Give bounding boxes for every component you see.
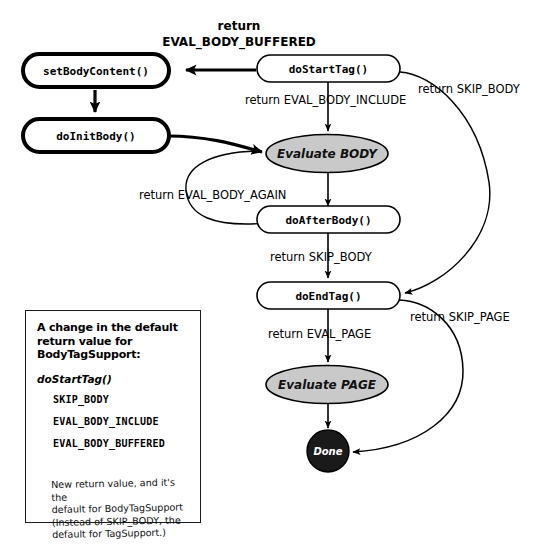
edge-skip-body-after: return SKIP_BODY xyxy=(270,232,373,278)
edge-label-skip-body-start: return SKIP_BODY xyxy=(418,82,521,96)
edge-label-eval-page: return EVAL_PAGE xyxy=(268,327,371,341)
edge-label-eval-body-include: return EVAL_BODY_INCLUDE xyxy=(245,93,406,107)
node-label-evaluate-body: Evaluate BODY xyxy=(277,147,378,161)
note-constant-eval-body-buffered: EVAL_BODY_BUFFERED xyxy=(53,438,191,449)
node-label-set-body-content: setBodyContent() xyxy=(43,65,149,78)
diagram-root: return EVAL_BODY_BUFFERED return EVAL_BO… xyxy=(0,0,538,550)
note-handwritten-annotation: New return value, and it's the default f… xyxy=(51,476,192,542)
node-evaluate-body[interactable]: Evaluate BODY xyxy=(266,135,388,173)
title-line-1: return xyxy=(218,19,261,33)
note-constant-list: SKIP_BODY EVAL_BODY_INCLUDE EVAL_BODY_BU… xyxy=(53,394,191,449)
title-line-2: EVAL_BODY_BUFFERED xyxy=(162,35,316,50)
edge-eval-body-include: return EVAL_BODY_INCLUDE xyxy=(245,82,406,131)
node-label-evaluate-page: Evaluate PAGE xyxy=(278,378,377,392)
edge-label-eval-body-again: return EVAL_BODY_AGAIN xyxy=(139,188,286,202)
note-signature: doStartTag() xyxy=(37,373,191,385)
node-evaluate-page[interactable]: Evaluate PAGE xyxy=(266,366,388,404)
node-label-done: Done xyxy=(313,446,342,457)
note-heading: A change in the default return value for… xyxy=(37,321,191,362)
edge-label-skip-body-after: return SKIP_BODY xyxy=(270,250,373,264)
node-do-start-tag[interactable]: doStartTag() xyxy=(257,55,400,82)
node-set-body-content[interactable]: setBodyContent() xyxy=(23,54,169,87)
node-label-do-end-tag: doEndTag() xyxy=(295,290,361,303)
node-do-init-body[interactable]: doInitBody() xyxy=(23,119,169,152)
edge-eval-page: return EVAL_PAGE xyxy=(268,309,371,362)
edge-doinitbody-to-evaluate-body xyxy=(168,136,262,152)
edge-label-skip-page: return SKIP_PAGE xyxy=(410,310,510,324)
note-constant-skip-body: SKIP_BODY xyxy=(53,394,191,405)
note-box: A change in the default return value for… xyxy=(25,310,201,523)
note-constant-eval-body-include: EVAL_BODY_INCLUDE xyxy=(53,416,191,427)
node-label-do-start-tag: doStartTag() xyxy=(289,63,368,76)
edge-skip-body-start: return SKIP_BODY xyxy=(400,72,521,293)
node-label-do-after-body: doAfterBody() xyxy=(285,214,371,227)
node-do-after-body[interactable]: doAfterBody() xyxy=(257,206,400,233)
node-do-end-tag[interactable]: doEndTag() xyxy=(257,282,400,309)
node-done[interactable]: Done xyxy=(307,430,349,472)
node-label-do-init-body: doInitBody() xyxy=(56,130,135,143)
